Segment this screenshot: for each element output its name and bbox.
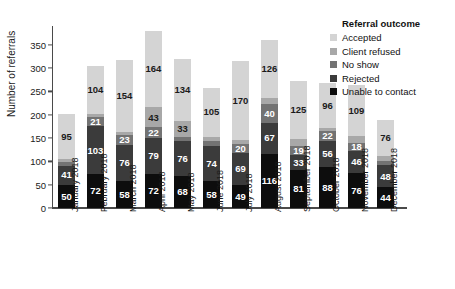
legend-item-no-show[interactable]: No show [330, 59, 455, 70]
legend-item-label: Unable to contact [342, 86, 416, 97]
x-tick-label: January 2018 [70, 157, 80, 212]
x-tick-label: November 2018 [360, 148, 370, 212]
segment-value-label: 74 [206, 159, 217, 169]
segment-value-label: 76 [177, 154, 188, 164]
legend: Referral outcome AcceptedClient refusedN… [330, 18, 455, 100]
segment-value-label: 109 [349, 106, 365, 116]
legend-item-accepted[interactable]: Accepted [330, 32, 455, 43]
segment-value-label: 164 [146, 64, 162, 74]
segment-value-label: 22 [148, 128, 159, 138]
y-tick-label: 0 [41, 203, 46, 214]
bar-segment-no-show[interactable]: 40 [261, 104, 279, 123]
segment-value-label: 67 [264, 133, 275, 143]
segment-value-label: 96 [322, 101, 333, 111]
bar-segment-accepted[interactable]: 126 [261, 40, 279, 99]
legend-item-label: Client refused [342, 46, 401, 57]
legend-swatch-icon [330, 61, 337, 68]
segment-value-label: 20 [235, 144, 246, 154]
bar-segment-client-refused[interactable]: 43 [145, 107, 163, 127]
bar-segment-client-refused[interactable] [87, 114, 105, 116]
x-tick-label: August 2018 [273, 161, 283, 212]
stacked-bar-chart: Number of referrals 05010015020025030035… [0, 0, 455, 289]
segment-value-label: 154 [117, 91, 133, 101]
segment-value-label: 126 [262, 64, 278, 74]
bar-segment-rejected[interactable]: 76 [174, 141, 192, 176]
segment-value-label: 104 [88, 85, 104, 95]
x-tick-label: May 2018 [186, 172, 196, 212]
bar-segment-client-refused[interactable] [116, 132, 134, 135]
bar-segment-client-refused[interactable] [261, 98, 279, 104]
bar-segment-no-show[interactable] [174, 137, 192, 141]
y-tick-label: 50 [35, 179, 46, 190]
bar-segment-client-refused[interactable]: 33 [174, 121, 192, 136]
x-tick-label: February 2018 [99, 153, 109, 212]
legend-swatch-icon [330, 34, 337, 41]
y-tick-label: 250 [30, 86, 46, 97]
bar-segment-accepted[interactable]: 95 [58, 114, 76, 158]
y-tick-label: 300 [30, 63, 46, 74]
segment-value-label: 125 [291, 105, 307, 115]
bar-segment-accepted[interactable]: 104 [87, 66, 105, 115]
legend-item-label: Rejected [342, 73, 380, 84]
bar-segment-no-show[interactable]: 23 [116, 135, 134, 146]
bar-segment-client-refused[interactable] [203, 137, 221, 141]
segment-value-label: 21 [90, 117, 101, 127]
segment-value-label: 95 [61, 132, 72, 142]
x-tick-label: October 2018 [331, 157, 341, 212]
segment-value-label: 22 [322, 131, 333, 141]
segment-value-label: 134 [175, 85, 191, 95]
x-tick-label: September 2018 [302, 145, 312, 212]
bar-segment-no-show[interactable]: 22 [145, 127, 163, 137]
segment-value-label: 33 [177, 124, 188, 134]
bar-segment-no-show[interactable]: 21 [87, 117, 105, 127]
bar-segment-no-show[interactable]: 20 [232, 144, 250, 153]
segment-value-label: 69 [235, 164, 246, 174]
bar-segment-rejected[interactable]: 67 [261, 123, 279, 154]
legend-item-unable-to-contact[interactable]: Unable to contact [330, 86, 455, 97]
x-tick-label: April 2018 [157, 171, 167, 212]
x-tick-label: June 2018 [215, 170, 225, 212]
bar-segment-accepted[interactable]: 105 [203, 88, 221, 137]
bar-segment-accepted[interactable]: 134 [174, 59, 192, 122]
legend-item-client-refused[interactable]: Client refused [330, 46, 455, 57]
y-tick-label: 200 [30, 109, 46, 120]
bar-segment-rejected[interactable]: 79 [145, 138, 163, 175]
segment-value-label: 170 [233, 96, 249, 106]
bar-segment-accepted[interactable]: 125 [290, 81, 308, 139]
y-tick-label: 350 [30, 39, 46, 50]
segment-value-label: 40 [264, 109, 275, 119]
bar-segment-accepted[interactable]: 154 [116, 60, 134, 132]
legend-title: Referral outcome [342, 18, 455, 29]
bar-segment-no-show[interactable] [203, 141, 221, 147]
segment-value-label: 23 [119, 135, 130, 145]
segment-value-label: 76 [380, 133, 391, 143]
y-axis-title: Number of referrals [6, 31, 17, 117]
y-tick-label: 150 [30, 133, 46, 144]
bar-segment-client-refused[interactable] [319, 128, 337, 130]
bar-segment-client-refused[interactable] [232, 140, 250, 143]
segment-value-label: 105 [204, 107, 220, 117]
segment-value-label: 43 [148, 113, 159, 123]
legend-swatch-icon [330, 75, 337, 82]
x-tick-label: July 2018 [244, 173, 254, 212]
legend-swatch-icon [330, 88, 337, 95]
bar-segment-no-show[interactable]: 22 [319, 131, 337, 141]
bar-segment-client-refused[interactable] [348, 136, 366, 143]
bar-segment-accepted[interactable]: 164 [145, 31, 163, 108]
y-tick-label: 100 [30, 156, 46, 167]
bar-segment-accepted[interactable]: 170 [232, 61, 250, 140]
segment-value-label: 79 [148, 151, 159, 161]
x-tick-label: March 2018 [128, 164, 138, 212]
legend-item-label: No show [342, 59, 379, 70]
legend-swatch-icon [330, 48, 337, 55]
legend-item-rejected[interactable]: Rejected [330, 73, 455, 84]
legend-item-label: Accepted [342, 32, 382, 43]
x-tick-label: December 2018 [389, 148, 399, 212]
